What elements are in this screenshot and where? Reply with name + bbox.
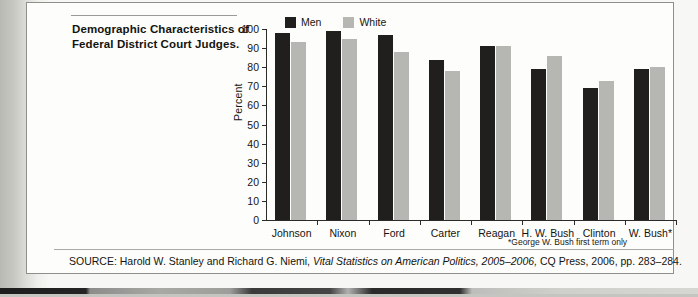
x-axis-tick-label: Nixon bbox=[329, 227, 356, 239]
x-axis-tick-label: Carter bbox=[431, 227, 460, 239]
y-axis-tick-label: 90 bbox=[247, 42, 259, 54]
bar-group bbox=[625, 29, 676, 220]
x-axis-tick bbox=[471, 220, 472, 225]
bar-white bbox=[445, 71, 460, 220]
legend-item-white: White bbox=[343, 16, 386, 28]
bar-group bbox=[522, 29, 573, 220]
source-divider bbox=[54, 249, 674, 250]
x-axis-tick bbox=[574, 220, 575, 225]
y-axis-tick-label: 100 bbox=[241, 23, 259, 35]
title-divider bbox=[71, 15, 237, 16]
bar-group bbox=[420, 29, 471, 220]
y-axis-tick-label: 10 bbox=[247, 195, 259, 207]
chart-legend: Men White bbox=[285, 16, 386, 28]
legend-swatch-men bbox=[285, 17, 296, 28]
x-axis-tick-label: Johnson bbox=[272, 227, 312, 239]
y-axis-tick-label: 40 bbox=[247, 138, 259, 150]
bar-group bbox=[317, 29, 368, 220]
source-authors: Harold W. Stanley and Richard G. Niemi, bbox=[120, 255, 310, 267]
bar-men bbox=[634, 69, 649, 220]
chart-plot-area: 0102030405060708090100 JohnsonNixonFordC… bbox=[266, 29, 676, 221]
x-axis-tick bbox=[522, 220, 523, 225]
bar-white bbox=[547, 56, 562, 220]
bar-white bbox=[342, 39, 357, 220]
y-axis-tick-label: 0 bbox=[253, 214, 259, 226]
bar-white bbox=[291, 42, 306, 220]
bar-group bbox=[574, 29, 625, 220]
y-axis-tick bbox=[262, 220, 266, 221]
bar-men bbox=[531, 69, 546, 220]
x-axis-tick bbox=[625, 220, 626, 225]
y-axis-title: Percent bbox=[232, 83, 244, 121]
x-axis-tick bbox=[676, 220, 677, 225]
source-tail: CQ Press, 2006, pp. 283–284. bbox=[540, 255, 682, 267]
bar-white bbox=[599, 81, 614, 220]
bar-men bbox=[275, 33, 290, 220]
y-axis-tick-label: 30 bbox=[247, 157, 259, 169]
bar-group bbox=[266, 29, 317, 220]
legend-swatch-white bbox=[343, 17, 354, 28]
x-axis-tick bbox=[420, 220, 421, 225]
bar-white bbox=[496, 46, 511, 220]
bar-men bbox=[378, 35, 393, 220]
source-prefix: SOURCE: bbox=[69, 255, 117, 267]
x-axis-tick-label: Ford bbox=[383, 227, 405, 239]
legend-label-men: Men bbox=[301, 16, 321, 28]
page-title: Demographic Characteristics of Federal D… bbox=[72, 22, 252, 52]
bar-men bbox=[583, 88, 598, 220]
x-axis-tick bbox=[317, 220, 318, 225]
source-title: Vital Statistics on American Politics, 2… bbox=[313, 255, 537, 267]
bar-men bbox=[429, 60, 444, 220]
legend-label-white: White bbox=[359, 16, 386, 28]
y-axis-tick-label: 70 bbox=[247, 80, 259, 92]
y-axis-tick-label: 20 bbox=[247, 176, 259, 188]
y-axis-tick-label: 80 bbox=[247, 61, 259, 73]
bar-group bbox=[369, 29, 420, 220]
source-note: SOURCE: Harold W. Stanley and Richard G.… bbox=[69, 255, 682, 267]
chart-footnote: *George W. Bush first term only bbox=[508, 237, 627, 247]
x-axis-tick bbox=[369, 220, 370, 225]
figure-card: Demographic Characteristics of Federal D… bbox=[26, 2, 674, 274]
y-axis-tick-label: 60 bbox=[247, 99, 259, 111]
bar-white bbox=[394, 52, 409, 220]
bar-men bbox=[480, 46, 495, 220]
bar-men bbox=[326, 31, 341, 220]
x-axis-tick-label: W. Bush* bbox=[629, 227, 672, 239]
legend-item-men: Men bbox=[285, 16, 321, 28]
bar-group bbox=[471, 29, 522, 220]
bar-white bbox=[650, 67, 665, 220]
figure-page: Demographic Characteristics of Federal D… bbox=[0, 0, 698, 297]
y-axis-tick-label: 50 bbox=[247, 119, 259, 131]
